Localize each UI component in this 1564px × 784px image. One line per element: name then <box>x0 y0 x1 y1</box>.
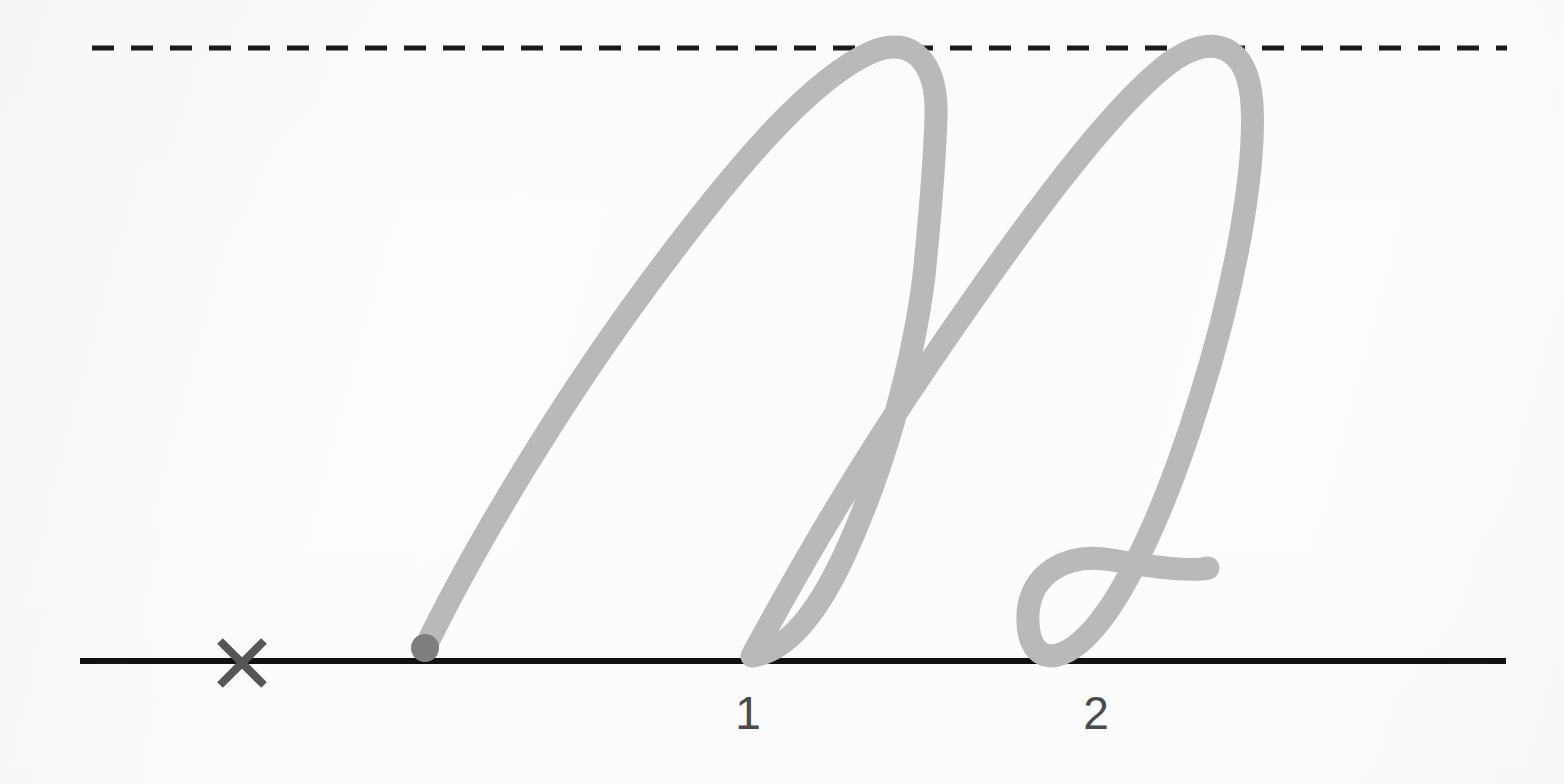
markers-layer <box>0 0 1564 784</box>
stroke-order-number-1: 1 <box>735 690 761 736</box>
handwriting-worksheet: 1 2 <box>0 0 1564 784</box>
x-mark-start-position <box>220 641 264 685</box>
pen-start-dot <box>411 634 439 662</box>
stroke-order-number-2: 2 <box>1083 690 1109 736</box>
